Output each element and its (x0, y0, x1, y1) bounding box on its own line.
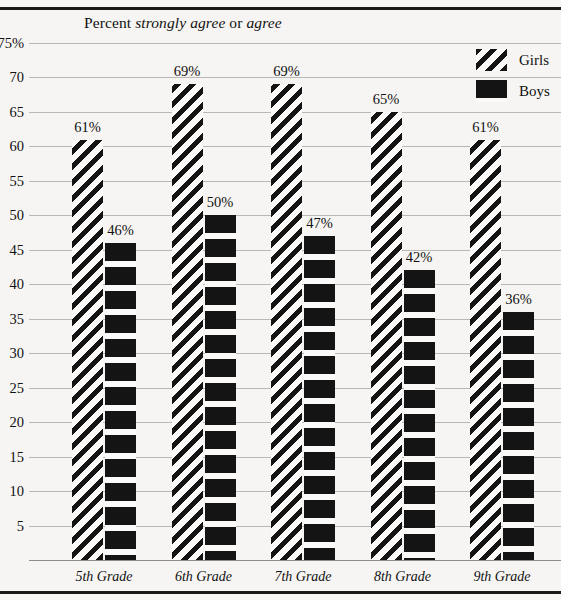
bar-value-label: 50% (190, 195, 250, 209)
bar-value-label: 69% (157, 64, 217, 78)
chart-title-part: strongly agree (135, 14, 225, 31)
bar-value-label: 46% (91, 223, 151, 237)
legend-label: Boys (519, 83, 550, 99)
gridline (29, 43, 561, 44)
chart-figure: Percent strongly agree or agree 75%70656… (0, 0, 561, 600)
bar-boys-3 (304, 236, 335, 560)
bar-value-label: 61% (456, 120, 516, 134)
bar-girls-4 (371, 112, 402, 560)
bar-boys-5 (503, 312, 534, 560)
y-axis-tick-label: 75% (0, 36, 24, 50)
bar-boys-2 (205, 215, 236, 560)
bar-value-label: 69% (257, 64, 317, 78)
bar-girls-1 (72, 140, 103, 560)
bar-value-label: 61% (58, 120, 118, 134)
x-axis-baseline (29, 560, 561, 561)
bar-girls-3 (271, 84, 302, 560)
chart-title-part: or (225, 14, 246, 31)
legend-swatch-boys (476, 80, 507, 102)
y-axis-tick-label: 20 (0, 415, 24, 429)
legend-swatch-girls (476, 49, 507, 71)
legend: GirlsBoys (476, 47, 561, 109)
y-axis-tick-label: 25 (0, 381, 24, 395)
y-axis-tick-label: 15 (0, 450, 24, 464)
bar-girls-2 (172, 84, 203, 560)
y-axis-tick-label: 70 (0, 70, 24, 84)
y-axis-tick-label: 55 (0, 174, 24, 188)
y-axis-tick-label: 35 (0, 312, 24, 326)
y-axis-tick-label: 5 (0, 519, 24, 533)
legend-item-girls: Girls (476, 47, 561, 73)
x-axis-label-5: 9th Grade (442, 569, 561, 585)
y-axis-tick-label: 10 (0, 484, 24, 498)
bar-value-label: 36% (489, 292, 549, 306)
y-axis-tick-label: 40 (0, 277, 24, 291)
y-axis-tick-label: 30 (0, 346, 24, 360)
plot-area: 75%706560555045403530252015105 61%46%69%… (29, 43, 561, 560)
bar-value-label: 65% (356, 92, 416, 106)
chart-title-part: Percent (84, 14, 135, 31)
chart-title-part: agree (246, 14, 281, 31)
bar-girls-5 (470, 140, 501, 560)
y-axis-tick-label: 45 (0, 243, 24, 257)
y-axis-tick-label: 60 (0, 139, 24, 153)
y-axis-tick-label: 50 (0, 208, 24, 222)
legend-item-boys: Boys (476, 78, 561, 104)
y-axis-tick-label: 65 (0, 105, 24, 119)
top-rule (0, 7, 561, 10)
bottom-rule (0, 591, 561, 594)
chart-title: Percent strongly agree or agree (84, 14, 282, 32)
bar-boys-1 (105, 243, 136, 560)
legend-label: Girls (519, 52, 549, 68)
bar-value-label: 47% (290, 216, 350, 230)
bar-value-label: 42% (389, 250, 449, 264)
bar-boys-4 (404, 270, 435, 560)
